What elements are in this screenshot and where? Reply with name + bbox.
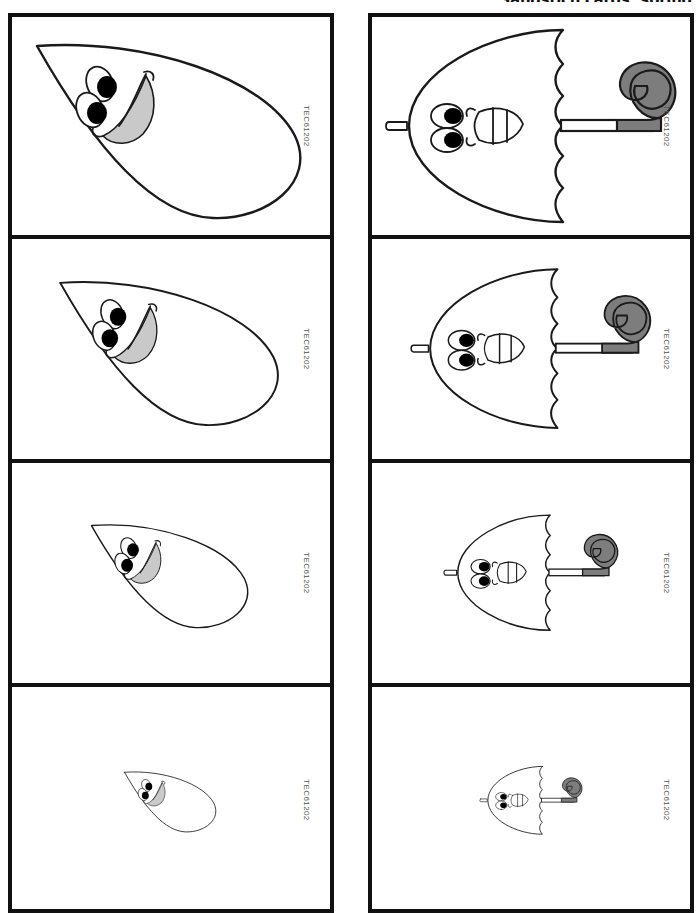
card-code: TEC61202 [302, 552, 311, 593]
umbrella-artwork-1 [372, 17, 690, 235]
card-code: TEC61202 [662, 105, 671, 146]
card-code: TEC61202 [662, 328, 671, 369]
umbrella-artwork-3 [372, 463, 690, 683]
card-code: TEC61202 [662, 552, 671, 593]
card-raindrop-1[interactable]: TEC61202 [12, 17, 330, 239]
page-title: Sandstich cards: spring [500, 0, 692, 2]
umbrella-artwork-4 [372, 687, 690, 913]
card-umbrella-1[interactable]: TEC61202 [372, 17, 690, 239]
umbrella-column: TEC61202 [368, 13, 694, 913]
card-umbrella-4[interactable]: TEC61202 [372, 687, 690, 913]
card-raindrop-4[interactable]: TEC61202 [12, 687, 330, 913]
umbrella-artwork-2 [372, 239, 690, 459]
raindrop-artwork-1 [12, 17, 330, 235]
raindrop-artwork-4 [12, 687, 330, 913]
card-raindrop-3[interactable]: TEC61202 [12, 463, 330, 687]
card-umbrella-3[interactable]: TEC61202 [372, 463, 690, 687]
raindrop-artwork-3 [12, 463, 330, 683]
card-code: TEC61202 [302, 105, 311, 146]
card-raindrop-2[interactable]: TEC61202 [12, 239, 330, 463]
card-code: TEC61202 [302, 779, 311, 820]
card-code: TEC61202 [302, 328, 311, 369]
raindrop-artwork-2 [12, 239, 330, 459]
card-code: TEC61202 [662, 779, 671, 820]
card-umbrella-2[interactable]: TEC61202 [372, 239, 690, 463]
raindrop-column: TEC61202 TEC61202 [8, 13, 334, 913]
